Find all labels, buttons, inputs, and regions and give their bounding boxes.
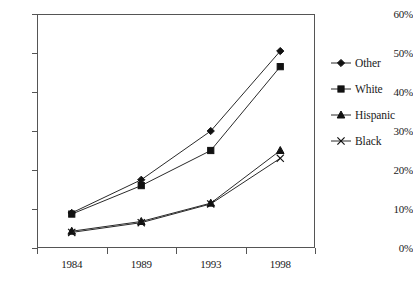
cross-marker-icon xyxy=(330,134,352,148)
chart-legend: OtherWhiteHispanicBlack xyxy=(330,50,413,154)
data-point-marker xyxy=(277,155,284,162)
legend-item-hispanic[interactable]: Hispanic xyxy=(330,102,413,128)
data-point-marker xyxy=(208,147,214,153)
legend-label: White xyxy=(355,83,383,96)
triangle-marker-icon xyxy=(330,108,352,122)
series-line xyxy=(72,67,281,214)
series-line xyxy=(72,51,281,213)
legend-label: Black xyxy=(355,135,381,148)
data-point-marker xyxy=(277,64,283,70)
data-point-marker xyxy=(276,147,284,154)
series-white xyxy=(69,64,284,218)
series-other xyxy=(68,47,284,216)
legend-item-white[interactable]: White xyxy=(330,76,413,102)
series-hispanic xyxy=(68,147,284,235)
legend-item-other[interactable]: Other xyxy=(330,50,413,76)
line-chart: 0%10%20%30%40%50%60% 1984198919931998 Ot… xyxy=(0,0,413,286)
diamond-marker-icon xyxy=(330,56,352,70)
legend-label: Hispanic xyxy=(355,109,395,122)
data-point-marker xyxy=(69,211,75,217)
legend-label: Other xyxy=(355,57,381,70)
legend-item-black[interactable]: Black xyxy=(330,128,413,154)
data-point-marker xyxy=(138,183,144,189)
series-line xyxy=(72,151,281,232)
series-black xyxy=(68,155,284,236)
series-line xyxy=(72,158,281,232)
square-marker-icon xyxy=(330,82,352,96)
